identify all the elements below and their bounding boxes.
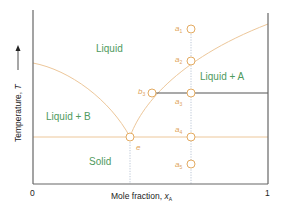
marker-e xyxy=(126,133,134,141)
label-a3: a3 xyxy=(175,97,182,107)
liquidus-curve-a xyxy=(130,24,268,137)
marker-b3 xyxy=(148,89,156,97)
marker-a1 xyxy=(187,25,195,33)
region-solid: Solid xyxy=(89,156,111,167)
region-liquid: Liquid xyxy=(96,43,123,54)
label-a1: a1 xyxy=(175,24,182,34)
marker-a4 xyxy=(187,133,195,141)
marker-a3 xyxy=(187,89,195,97)
label-a2: a2 xyxy=(175,55,182,65)
region-liquid-b: Liquid + B xyxy=(46,111,91,122)
y-axis-arrow-icon xyxy=(16,45,21,70)
region-liquid-a: Liquid + A xyxy=(200,71,245,82)
y-axis-label: Temperature, T xyxy=(13,84,23,142)
liquidus-curve-b xyxy=(33,63,130,137)
label-e: e xyxy=(136,143,141,152)
label-b3: b3 xyxy=(138,87,145,97)
y-axis-label-group: Temperature, T xyxy=(13,84,23,142)
x-axis-label: Mole fraction, xA xyxy=(111,191,173,202)
label-a4: a4 xyxy=(175,125,182,135)
x-tick-0: 0 xyxy=(30,188,35,198)
x-tick-1: 1 xyxy=(265,188,270,198)
label-a5: a5 xyxy=(175,160,182,170)
marker-a2 xyxy=(187,57,195,65)
phase-diagram: a1 a2 a3 a4 a5 b3 e Liquid Liquid + A Li… xyxy=(0,0,282,212)
marker-a5 xyxy=(187,160,195,168)
